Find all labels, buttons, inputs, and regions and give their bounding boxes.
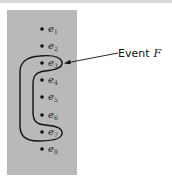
svg-text:e6: e6 bbox=[48, 109, 58, 121]
point-dot-icon bbox=[40, 61, 44, 65]
sample-point-e8: e8 bbox=[40, 143, 58, 155]
event-label: EventF bbox=[118, 47, 162, 60]
point-dot-icon bbox=[40, 27, 44, 31]
svg-text:e2: e2 bbox=[48, 40, 58, 52]
svg-text:e1: e1 bbox=[48, 23, 58, 35]
point-subscript: 2 bbox=[54, 45, 58, 52]
arrowhead-icon bbox=[64, 60, 71, 64]
sample-point-e3: e3 bbox=[40, 57, 58, 69]
sample-space-diagram: e1 e2 e3 e4 e5 e6 e7 e8 EventF bbox=[0, 0, 172, 177]
point-subscript: 8 bbox=[54, 148, 58, 155]
point-subscript: 4 bbox=[54, 79, 58, 86]
point-subscript: 6 bbox=[54, 114, 58, 121]
sample-point-e7: e7 bbox=[40, 126, 58, 138]
point-dot-icon bbox=[40, 147, 44, 151]
point-dot-icon bbox=[40, 113, 44, 117]
sample-point-e2: e2 bbox=[40, 40, 58, 52]
svg-text:e7: e7 bbox=[48, 126, 58, 138]
sample-point-e5: e5 bbox=[40, 91, 58, 103]
point-subscript: 5 bbox=[54, 96, 58, 103]
point-dot-icon bbox=[40, 44, 44, 48]
svg-text:e5: e5 bbox=[48, 91, 58, 103]
svg-text:e8: e8 bbox=[48, 143, 58, 155]
svg-text:e3: e3 bbox=[48, 57, 58, 69]
point-dot-icon bbox=[40, 130, 44, 134]
event-name: F bbox=[153, 47, 162, 60]
point-dot-icon bbox=[40, 78, 44, 82]
event-word: Event bbox=[118, 47, 150, 60]
point-subscript: 7 bbox=[54, 131, 58, 138]
point-dot-icon bbox=[40, 95, 44, 99]
event-pointer-line bbox=[66, 53, 118, 63]
point-subscript: 1 bbox=[54, 28, 58, 35]
sample-point-e6: e6 bbox=[40, 109, 58, 121]
sample-point-e4: e4 bbox=[40, 74, 58, 86]
sample-point-e1: e1 bbox=[40, 23, 58, 35]
svg-text:e4: e4 bbox=[48, 74, 58, 86]
